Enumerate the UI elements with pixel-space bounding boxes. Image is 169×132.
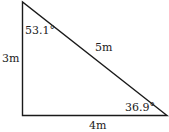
right-triangle-shape: [23, 2, 168, 116]
angle-top-label: 53.1°: [25, 25, 55, 36]
hypotenuse-label: 5m: [95, 42, 112, 53]
angle-bottom-right-label: 36.9°: [125, 102, 155, 113]
vertical-side-label: 3m: [2, 53, 19, 64]
horizontal-side-label: 4m: [89, 120, 106, 131]
